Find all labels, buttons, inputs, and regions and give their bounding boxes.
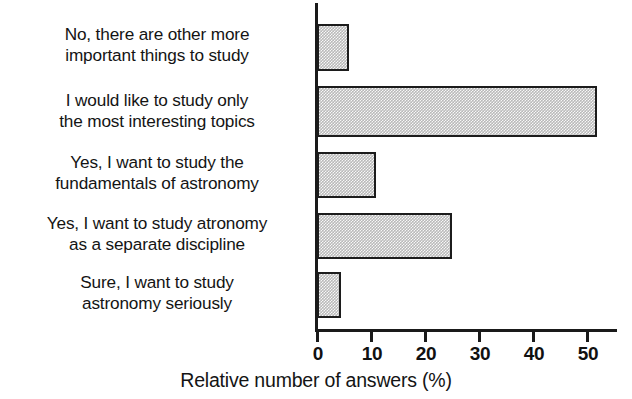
x-axis-tick-label: 30 <box>460 343 500 365</box>
x-axis-tick <box>424 331 427 342</box>
x-axis-tick-label: 10 <box>352 343 392 365</box>
bar <box>317 24 349 71</box>
x-axis-tick <box>586 331 589 342</box>
x-axis-tick <box>478 331 481 342</box>
x-axis-tick <box>532 331 535 342</box>
bar <box>317 152 376 198</box>
x-axis-tick-label: 40 <box>514 343 554 365</box>
x-axis-tick-label: 20 <box>406 343 446 365</box>
bar <box>317 86 597 137</box>
x-axis-tick-label: 0 <box>298 343 338 365</box>
bar <box>317 213 452 259</box>
bar-chart: No, there are other more important thing… <box>0 0 632 399</box>
x-axis-tick <box>316 331 319 342</box>
x-axis-tick <box>370 331 373 342</box>
x-axis-line <box>315 329 617 332</box>
plot-area: 0 10 20 30 40 50 <box>0 0 632 340</box>
x-axis-title: Relative number of answers (%) <box>0 369 632 392</box>
x-axis-tick-label: 50 <box>568 343 608 365</box>
bar <box>317 272 341 318</box>
